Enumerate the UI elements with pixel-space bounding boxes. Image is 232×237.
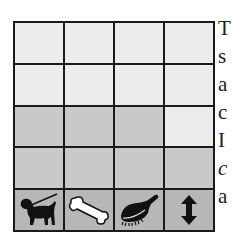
text-fragment: I (218, 126, 232, 154)
grid-cell-icon (15, 190, 63, 230)
text-fragment: T (218, 14, 232, 42)
grid-cell (15, 23, 63, 63)
text-fragment: a (218, 182, 232, 210)
grid-cell-icon (165, 190, 213, 230)
activity-grid (13, 21, 215, 232)
text-fragment: a (218, 70, 232, 98)
grid-cell-shaded (65, 148, 113, 188)
grid-cell-shaded (165, 148, 213, 188)
grid-cell (65, 65, 113, 105)
grid-cell-icon (115, 190, 163, 230)
grid-cell-icon (65, 190, 113, 230)
grid-cell-shaded (115, 148, 163, 188)
cropped-paragraph-text: T s a c I c a (218, 14, 232, 210)
grid-cell (165, 23, 213, 63)
grid-cell (165, 107, 213, 147)
grid-cell (65, 23, 113, 63)
grid-cell (115, 65, 163, 105)
grid-cell-shaded (15, 107, 63, 147)
grid-cell (15, 65, 63, 105)
grid-cell-shaded (115, 107, 163, 147)
bone-icon (67, 192, 111, 228)
grid-cell (165, 65, 213, 105)
brush-icon (117, 192, 161, 228)
text-fragment: s (218, 42, 232, 70)
grid-cell-shaded (65, 107, 113, 147)
text-fragment: c (218, 154, 232, 182)
text-fragment: c (218, 98, 232, 126)
dog-on-leash-icon (17, 192, 61, 228)
grid-cell (115, 23, 163, 63)
grid-cell-shaded (15, 148, 63, 188)
up-down-arrow-icon (167, 192, 211, 228)
